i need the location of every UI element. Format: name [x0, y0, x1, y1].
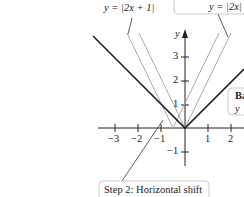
y-tick-label-2: 2	[173, 74, 178, 85]
x-tick-label-m1: −1	[154, 133, 165, 144]
eq-shifted-label: y = |2x + 1|	[104, 2, 154, 13]
eq-stretched-label: y = |2x|	[209, 1, 242, 12]
y-tick-label-m1: −1	[167, 145, 178, 156]
y-tick-label-1: 1	[173, 98, 178, 109]
y-axis-label: y	[175, 28, 180, 39]
x-tick-label-1: 1	[205, 133, 210, 144]
step2-label: Step 2: Horizontal shift	[104, 184, 202, 195]
x-tick-label-2: 2	[228, 133, 233, 144]
y-tick-label-3: 3	[173, 50, 178, 61]
base-box-line2: y	[235, 103, 240, 114]
x-tick-label-m2: −2	[131, 133, 142, 144]
x-tick-label-m3: −3	[108, 133, 119, 144]
base-box-line1: Ba	[235, 90, 244, 101]
